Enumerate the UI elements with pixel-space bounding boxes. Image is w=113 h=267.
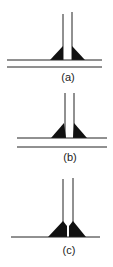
fillet-weld-right — [69, 221, 86, 237]
panel-label-b: (b) — [63, 151, 76, 163]
fillet-weld-left — [48, 221, 67, 237]
fillet-weld-left — [50, 46, 63, 60]
panel-label-c: (c) — [63, 244, 76, 256]
weld-diagram: (a) (b) (c) — [0, 0, 113, 267]
panel-label-a: (a) — [61, 71, 74, 83]
fillet-weld-right — [73, 123, 87, 138]
panel-c: (c) — [11, 178, 100, 256]
panel-a: (a) — [7, 12, 102, 83]
panel-b: (b) — [17, 93, 107, 163]
fillet-weld-right — [72, 46, 85, 60]
fillet-weld-left — [51, 123, 66, 138]
